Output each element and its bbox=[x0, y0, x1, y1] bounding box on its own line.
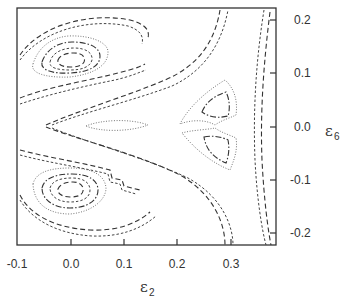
central-lens bbox=[86, 121, 148, 131]
svg-text:2: 2 bbox=[149, 287, 155, 298]
y-axis-label: ε 6 bbox=[325, 122, 340, 142]
y-tick-label: 0.2 bbox=[294, 13, 311, 27]
x-tick-label: 0.0 bbox=[63, 257, 80, 271]
x-axis-label: ε 2 bbox=[140, 278, 155, 298]
x-tick-label: -0.1 bbox=[7, 257, 28, 271]
contour-plot: -0.1 0.0 0.1 0.2 0.3 0.2 0.1 0.0 -0.1 -0… bbox=[0, 0, 349, 302]
lower-min-outer bbox=[33, 168, 106, 214]
x-tick-label: 0.3 bbox=[223, 257, 240, 271]
y-tick-label: 0.0 bbox=[294, 120, 311, 134]
y-tick-label: -0.1 bbox=[290, 173, 311, 187]
svg-text:6: 6 bbox=[334, 131, 340, 142]
contour-lines bbox=[20, 10, 271, 245]
x-tick-labels: -0.1 0.0 0.1 0.2 0.3 bbox=[7, 257, 240, 271]
right-lower-lobe bbox=[182, 128, 237, 170]
right-edge-contour bbox=[261, 12, 271, 245]
x-tick-label: 0.2 bbox=[169, 257, 186, 271]
right-upper-lobe bbox=[180, 80, 237, 125]
y-ticks bbox=[270, 20, 276, 233]
x-tick-label: 0.1 bbox=[116, 257, 133, 271]
y-tick-label: 0.1 bbox=[294, 66, 311, 80]
svg-text:ε: ε bbox=[140, 278, 148, 296]
svg-text:ε: ε bbox=[325, 122, 333, 140]
upper-outer-contour bbox=[20, 18, 148, 55]
plot-frame bbox=[17, 8, 276, 245]
y-tick-labels: 0.2 0.1 0.0 -0.1 -0.2 bbox=[290, 13, 311, 240]
y-tick-label: -0.2 bbox=[290, 226, 311, 240]
x-ticks bbox=[71, 239, 231, 245]
